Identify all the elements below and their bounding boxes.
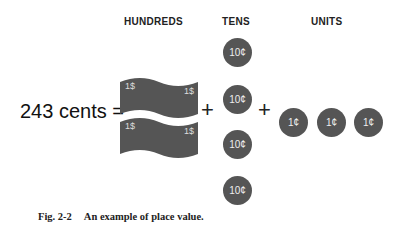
dime-coin-1: 10¢ [223,38,252,67]
caption-number: Fig. 2-2 [38,211,72,222]
dollar-bill-2: 1$ 1$ [120,118,198,158]
dime-coin-4: 10¢ [223,176,252,205]
bill-label-left: 1$ [125,121,135,131]
dime-coin-2: 10¢ [223,85,252,114]
penny-coin-2: 1¢ [317,108,346,137]
dollar-bill-1: 1$ 1$ [120,78,198,118]
bill-label-right: 1$ [184,86,194,96]
bill-label-left: 1$ [125,81,135,91]
units-header: UNITS [311,16,343,27]
hundreds-header: HUNDREDS [124,16,183,27]
dime-coin-3: 10¢ [223,130,252,159]
bill-label-right: 1$ [184,126,194,136]
equation-lhs: 243 cents = [20,100,124,123]
plus-sign-1: + [201,97,214,123]
figure-caption: Fig. 2-2An example of place value. [38,211,204,222]
tens-header: TENS [222,16,250,27]
caption-text: An example of place value. [84,211,204,222]
plus-sign-2: + [258,97,271,123]
penny-coin-3: 1¢ [354,108,383,137]
penny-coin-1: 1¢ [279,108,308,137]
